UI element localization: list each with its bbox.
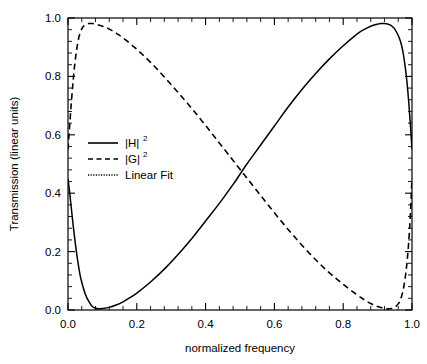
legend-label-exponent: 2 (143, 134, 148, 143)
legend-label-exponent: 2 (143, 150, 148, 159)
y-tick-label: 0.6 (45, 129, 61, 141)
x-axis-title: normalized frequency (185, 342, 295, 354)
x-tick-label: 0.4 (198, 318, 215, 330)
chart-legend: |H|2|G|2Linear Fit (88, 134, 174, 181)
y-tick-label: 0.2 (45, 246, 61, 258)
legend-label: |H| (125, 137, 139, 149)
axis-tick-labels: 0.00.20.40.60.81.00.00.20.40.60.81.0 (45, 12, 420, 330)
x-tick-label: 0.6 (266, 318, 282, 330)
curve-H2 (68, 23, 412, 308)
x-tick-label: 0.2 (129, 318, 145, 330)
x-tick-label: 0.8 (335, 318, 351, 330)
y-tick-label: 0.8 (45, 70, 61, 82)
plot-frame (68, 18, 412, 310)
y-tick-label: 0.0 (45, 304, 61, 316)
axis-ticks (68, 18, 412, 310)
legend-label: Linear Fit (125, 169, 174, 181)
y-tick-label: 1.0 (45, 12, 61, 24)
curve-G2 (68, 23, 412, 308)
x-tick-label: 0.0 (60, 318, 76, 330)
chart-canvas: normalized frequency Transmission (linea… (0, 0, 427, 364)
chart-figure: normalized frequency Transmission (linea… (0, 0, 427, 364)
x-tick-label: 1.0 (404, 318, 420, 330)
legend-label: |G| (125, 153, 140, 165)
data-curves (68, 23, 412, 308)
y-axis-title: Transmission (linear units) (8, 97, 20, 232)
y-tick-label: 0.4 (45, 187, 62, 199)
